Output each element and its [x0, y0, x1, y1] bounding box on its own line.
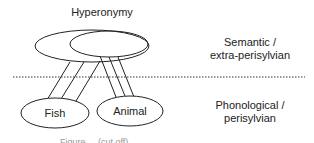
semantic-level-line1: Semantic /	[195, 36, 305, 49]
figure-caption-cutoff: Figure ... (cut off)	[60, 137, 310, 143]
phonological-level-line1: Phonological /	[195, 99, 305, 112]
phonological-level-line2: perisylvian	[195, 112, 305, 125]
animal-connections	[100, 56, 134, 97]
semantic-level-line2: extra-perisylvian	[195, 49, 305, 62]
phonological-level-label: Phonological / perisylvian	[195, 99, 305, 125]
semantic-inner-ellipse	[70, 31, 148, 57]
semantic-level-label: Semantic / extra-perisylvian	[195, 36, 305, 62]
fish-label: Fish	[30, 107, 80, 120]
diagram-title: Hyperonymy	[62, 6, 142, 19]
semantic-outer-ellipse	[35, 30, 149, 62]
animal-label: Animal	[105, 105, 155, 118]
fish-connections	[47, 61, 100, 101]
